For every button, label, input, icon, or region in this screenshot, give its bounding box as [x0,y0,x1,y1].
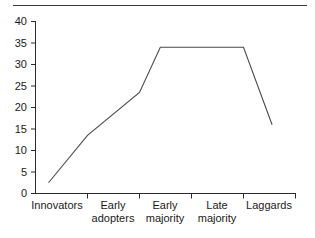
y-tick-label-10: 10 [5,145,27,156]
y-tick-label-0: 0 [5,188,27,199]
y-tick-label-15: 15 [5,124,27,135]
y-axis-ticks [31,22,35,194]
y-tick-label-30: 30 [5,59,27,70]
x-tick-label-laggards: Laggards [234,199,304,212]
adoption-curve-figure: 40 35 30 25 20 15 10 5 0 Innovators Earl… [0,0,315,238]
y-tick-label-40: 40 [5,16,27,27]
adoption-curve-line [49,47,273,182]
y-tick-label-35: 35 [5,38,27,49]
y-tick-label-25: 25 [5,81,27,92]
x-axis-ticks [88,194,296,199]
y-tick-label-5: 5 [5,167,27,178]
y-tick-label-20: 20 [5,102,27,113]
